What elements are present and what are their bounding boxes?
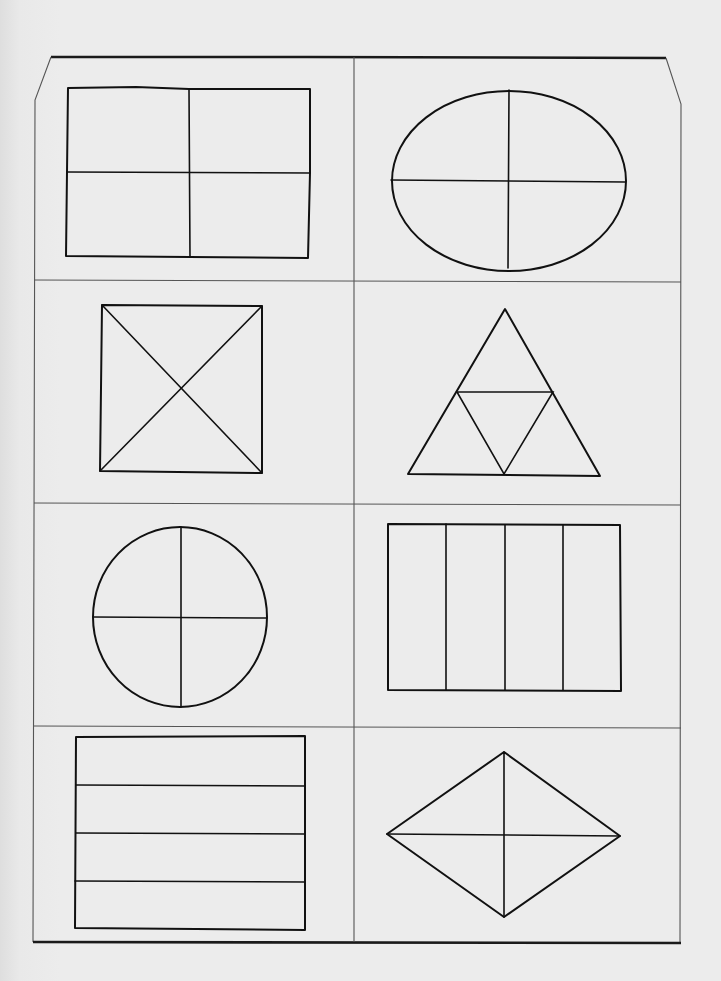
- cell-2-ellipse-quarters: [391, 90, 626, 271]
- cell-7-rectangle-horizontal-strips: [75, 736, 305, 930]
- worksheet-page: [0, 0, 721, 981]
- vertical-divider: [508, 90, 509, 268]
- fractions-worksheet: [0, 0, 721, 981]
- horizontal-divider: [391, 180, 625, 182]
- strip-divider-3: [75, 881, 305, 882]
- horizontal-divider: [93, 617, 267, 618]
- frame-right-border: [666, 58, 681, 942]
- cell-8-rhombus-quarters: [387, 752, 620, 917]
- cell-3-square-diagonals: [100, 305, 262, 473]
- cell-1-rectangle-quarters: [66, 87, 310, 258]
- frame-top-border: [51, 57, 666, 58]
- horizontal-diagonal-divider: [387, 834, 620, 836]
- frame-bottom-border: [33, 942, 681, 943]
- frame-left-border: [33, 57, 51, 942]
- strip-divider-2: [76, 833, 305, 834]
- cell-6-rectangle-vertical-strips: [388, 524, 621, 691]
- row-divider-1: [34, 280, 681, 282]
- horizontal-divider: [67, 172, 310, 173]
- diagonal-divider-2: [100, 306, 262, 471]
- row-divider-2: [34, 503, 681, 505]
- row-divider-3: [34, 726, 681, 728]
- strip-divider-1: [76, 785, 305, 786]
- cell-5-oval-quarters: [93, 527, 267, 707]
- inner-triangle-divider: [457, 392, 553, 474]
- cell-4-triangle-quarters: [408, 309, 600, 476]
